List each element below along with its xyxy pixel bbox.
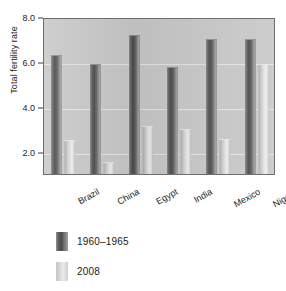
bar [90,64,101,174]
bar-group [245,18,269,174]
bar [103,162,114,174]
bar-group [51,18,75,174]
bar-group [129,18,153,174]
gridline [44,64,274,65]
bar [219,139,230,174]
gridline [44,154,274,155]
bar [64,140,75,174]
bar-group [167,18,191,174]
x-axis-label: India [192,187,214,205]
bar [206,39,217,174]
chart-legend: 1960–1965 2008 [56,231,129,291]
legend-label-series-2: 2008 [77,266,100,277]
bar-group [206,18,230,174]
bar [258,64,269,174]
bar [245,39,256,174]
bar [129,35,140,174]
x-axis-label: Mexico [232,187,262,210]
plot-area [43,18,275,175]
x-axis-label: Egypt [154,187,179,207]
legend-swatch-series-2 [56,262,68,281]
legend-item: 2008 [56,261,129,281]
y-axis-tick-label: 4.0 [0,103,43,113]
legend-label-series-1: 1960–1965 [77,236,129,247]
legend-swatch-series-1 [56,232,68,251]
bar [167,67,178,174]
x-axis-label: China [116,187,141,207]
gridline [44,109,274,110]
bar [180,129,191,174]
fertility-rate-bar-chart: Total fertility rate 8.06.04.02.0 Brazil… [0,0,286,291]
bar-group [90,18,114,174]
y-axis-tick-label: 8.0 [0,13,43,23]
legend-item: 1960–1965 [56,231,129,251]
x-axis-label: Nigeria [271,187,286,210]
x-axis-label: Brazil [77,187,102,207]
bar [142,126,153,174]
y-axis-tick-label: 6.0 [0,58,43,68]
bar [51,55,62,174]
y-axis-tick-label: 2.0 [0,148,43,158]
